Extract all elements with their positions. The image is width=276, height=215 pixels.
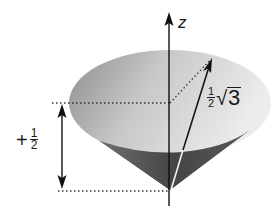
z-axis-label: z [178, 14, 187, 31]
vector-length-fraction: 1 2 [207, 86, 215, 109]
vector-length-label: 1 2 √ 3 [207, 86, 241, 109]
fraction-denominator: 2 [208, 98, 214, 109]
projection-label: + 1 2 [16, 128, 38, 151]
plus-sign: + [16, 130, 28, 150]
cone-diagram: z 1 2 √ 3 + 1 2 [0, 0, 276, 215]
radicand: 3 [227, 87, 241, 108]
projection-fraction: 1 2 [30, 128, 39, 151]
fraction-denominator: 2 [31, 140, 38, 151]
radical-sign-icon: √ [216, 88, 227, 108]
